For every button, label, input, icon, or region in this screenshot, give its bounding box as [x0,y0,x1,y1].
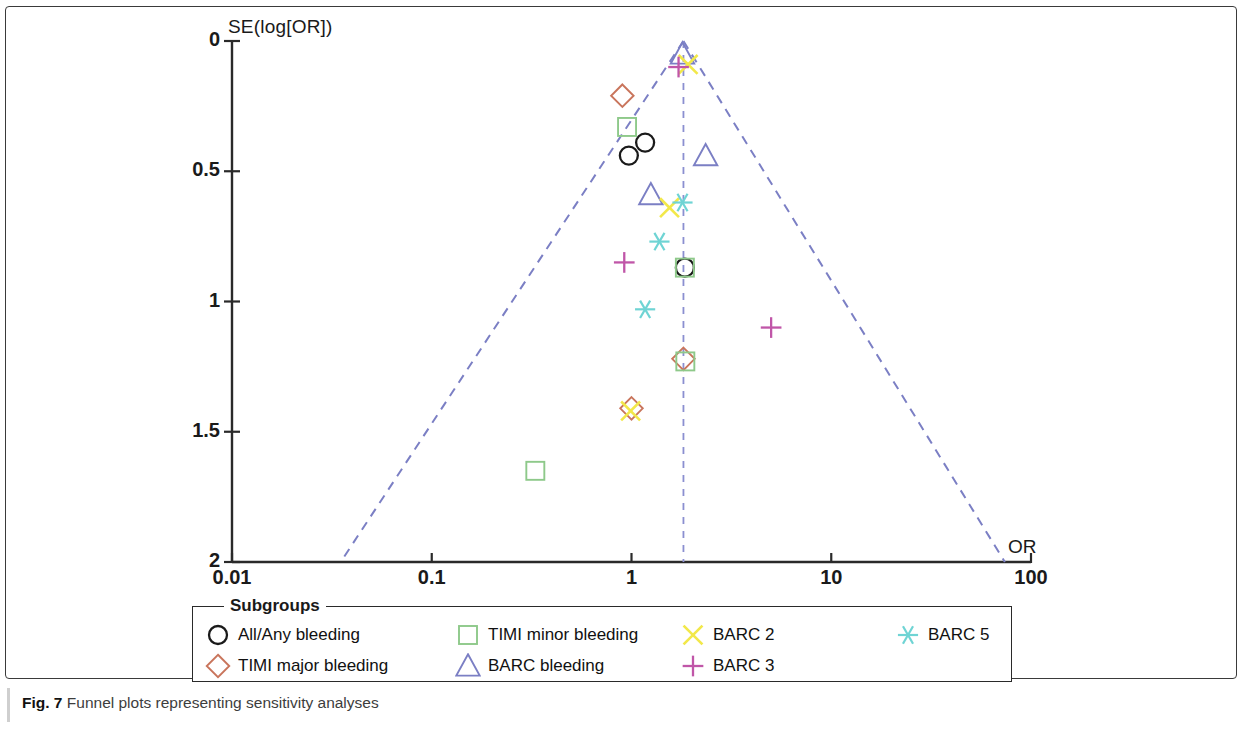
data-point-square [526,462,544,480]
legend-title: Subgroups [224,598,326,614]
caption-prefix: Fig. 7 [22,694,62,711]
triangle-marker-icon [455,653,481,679]
caption-rule [7,688,10,722]
legend-item[interactable]: BARC 3 [672,653,887,679]
data-point-plus [761,317,782,338]
legend-item[interactable]: BARC 5 [887,622,1007,648]
data-point-circle [620,147,638,165]
data-point-asterisk [672,194,692,211]
legend-item-label: TIMI major bleeding [238,656,388,676]
x-tick-label: 0.01 [182,566,282,589]
funnel-plot: SE(log[OR]) OR 00.511.52 0.010.1110100 [0,0,1245,600]
legend-box: All/Any bleedingTIMI minor bleedingBARC … [192,606,1012,682]
figure-caption: Fig. 7 Funnel plots representing sensiti… [22,694,379,712]
legend-item-label: BARC 2 [713,625,774,645]
caption-text: Funnel plots representing sensitivity an… [67,694,379,711]
legend-item[interactable]: TIMI major bleeding [197,653,447,679]
data-point-asterisk [649,233,669,250]
y-tick-label: 1 [154,289,220,312]
y-tick-label: 1.5 [154,419,220,442]
y-tick-label: 0.5 [154,158,220,181]
legend-item-label: BARC 5 [928,625,989,645]
legend-items: All/Any bleedingTIMI minor bleedingBARC … [197,619,1009,681]
legend-item[interactable]: All/Any bleeding [197,622,447,648]
y-axis-label: SE(log[OR]) [228,16,333,38]
data-point-triangle [639,183,662,204]
square-marker-icon [455,622,481,648]
data-point-diamond [611,84,634,107]
legend-item-label: All/Any bleeding [238,625,360,645]
data-point-circle [676,259,694,277]
x-axis-label: OR [1008,536,1037,558]
diamond-marker-icon [205,653,231,679]
x-tick-label: 100 [981,566,1081,589]
x-tick-label: 1 [582,566,682,589]
x-marker-icon [680,622,706,648]
asterisk-marker-icon [895,622,921,648]
data-point-circle [636,134,654,152]
legend-item[interactable]: TIMI minor bleeding [447,622,672,648]
legend-item-label: BARC 3 [713,656,774,676]
data-point-plus [614,252,635,273]
data-point-triangle [694,144,717,165]
x-tick-label: 0.1 [382,566,482,589]
data-point-x [660,198,679,217]
funnel-lines [341,41,1005,562]
y-tick-label: 0 [154,28,220,51]
circle-marker-icon [205,622,231,648]
data-points [526,42,781,480]
plus-marker-icon [680,653,706,679]
figure-root: SE(log[OR]) OR 00.511.52 0.010.1110100 A… [0,0,1245,729]
legend-item-label: BARC bleeding [488,656,604,676]
data-point-asterisk [635,301,655,318]
legend-item-label: TIMI minor bleeding [488,625,638,645]
x-tick-label: 10 [781,566,881,589]
legend-item[interactable]: BARC 2 [672,622,887,648]
axis-group [224,41,1031,563]
legend-item[interactable]: BARC bleeding [447,653,672,679]
